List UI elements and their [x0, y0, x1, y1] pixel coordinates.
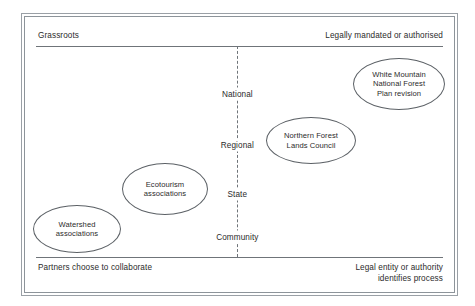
vertical-scale-axis	[237, 46, 238, 257]
node-white-mountain-national-forest-plan-revision[interactable]: White Mountain National Forest Plan revi…	[353, 58, 445, 110]
label-partners-choose-to-collaborate: Partners choose to collaborate	[38, 262, 152, 273]
node-label: Ecotourism associations	[144, 180, 186, 199]
node-northern-forest-lands-council[interactable]: Northern Forest Lands Council	[266, 117, 356, 164]
label-grassroots: Grassroots	[38, 30, 79, 41]
node-label: Northern Forest Lands Council	[284, 131, 338, 150]
label-legal-entity-identifies-process: Legal entity or authority identifies pro…	[355, 262, 443, 284]
scale-label-community: Community	[211, 231, 263, 244]
scale-label-national: National	[217, 88, 258, 101]
label-legally-mandated-or-authorised: Legally mandated or authorised	[325, 30, 443, 41]
scale-label-state: State	[223, 188, 253, 201]
diagram-plot-area: Grassroots Legally mandated or authorise…	[25, 17, 454, 292]
diagram-root: Grassroots Legally mandated or authorise…	[0, 0, 475, 306]
node-label: White Mountain National Forest Plan revi…	[372, 70, 425, 98]
bottom-divider-rule	[36, 257, 443, 258]
node-label: Watershed associations	[56, 220, 98, 239]
top-divider-rule	[36, 46, 443, 47]
node-ecotourism-associations[interactable]: Ecotourism associations	[122, 163, 208, 215]
scale-label-regional: Regional	[216, 138, 259, 151]
node-watershed-associations[interactable]: Watershed associations	[33, 205, 121, 253]
